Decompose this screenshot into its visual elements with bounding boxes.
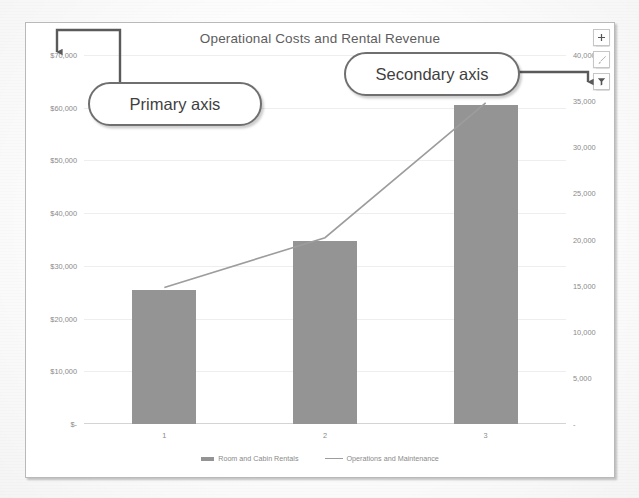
primary-axis-tick: $- [70, 420, 77, 429]
chart-title: Operational Costs and Rental Revenue [26, 31, 614, 46]
secondary-axis-tick: 25,000 [573, 189, 596, 198]
primary-axis-tick: $10,000 [50, 367, 77, 376]
bar-room-and-cabin-rentals-3[interactable] [454, 105, 518, 424]
callout-label: Secondary axis [376, 65, 489, 84]
category-label-2: 2 [323, 431, 327, 440]
chart-legend[interactable]: Room and Cabin Rentals Operations and Ma… [26, 454, 614, 463]
primary-axis-tick: $60,000 [50, 103, 77, 112]
funnel-icon [597, 77, 606, 86]
line-series-operations-and-maintenance[interactable] [84, 55, 384, 205]
legend-item-operations-and-maintenance[interactable]: Operations and Maintenance [325, 454, 439, 463]
primary-axis-tick: $30,000 [50, 261, 77, 270]
secondary-axis-tick: 20,000 [573, 235, 596, 244]
chart-side-buttons [593, 29, 610, 90]
legend-label: Operations and Maintenance [347, 454, 439, 463]
primary-axis-tick: $70,000 [50, 51, 77, 60]
legend-label: Room and Cabin Rentals [218, 454, 298, 463]
category-label-1: 1 [162, 431, 166, 440]
secondary-axis-tick: 30,000 [573, 143, 596, 152]
primary-axis-tick: $40,000 [50, 209, 77, 218]
callout-primary-axis: Primary axis [88, 82, 262, 126]
plus-icon [597, 33, 606, 42]
brush-icon [597, 55, 607, 65]
bar-room-and-cabin-rentals-2[interactable] [293, 241, 357, 424]
bar-room-and-cabin-rentals-1[interactable] [132, 290, 196, 424]
legend-bar-swatch-icon [201, 457, 214, 461]
chart-styles-button[interactable] [593, 51, 610, 68]
chart-filters-button[interactable] [593, 73, 610, 90]
legend-line-swatch-icon [325, 458, 343, 460]
secondary-axis-tick: - [573, 420, 575, 429]
callout-label: Primary axis [130, 95, 221, 114]
chart-elements-button[interactable] [593, 29, 610, 46]
primary-axis-tick: $20,000 [50, 314, 77, 323]
callout-secondary-axis: Secondary axis [344, 52, 520, 96]
secondary-axis-tick: 15,000 [573, 281, 596, 290]
category-label-3: 3 [484, 431, 488, 440]
secondary-axis-tick: 35,000 [573, 97, 596, 106]
secondary-axis-tick: 5,000 [573, 373, 592, 382]
primary-axis-tick: $50,000 [50, 156, 77, 165]
legend-item-room-and-cabin-rentals[interactable]: Room and Cabin Rentals [201, 454, 298, 463]
secondary-axis-tick: 10,000 [573, 327, 596, 336]
